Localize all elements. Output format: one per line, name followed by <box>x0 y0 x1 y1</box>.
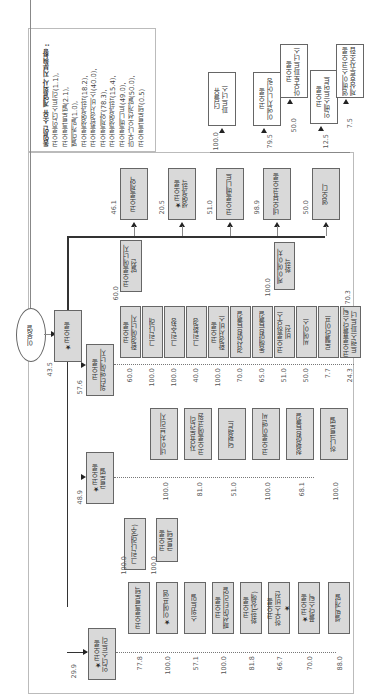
ecoone-node: 코오롱에너지 발전 <box>120 240 142 292</box>
industry-child-node: 셀빅개발 <box>328 582 350 634</box>
global-child-node: 덕평랜드 <box>218 408 246 460</box>
water-child-node: 경산맑은물길 <box>230 306 251 358</box>
arrow-icon <box>261 128 267 133</box>
owner-line <box>30 0 31 308</box>
water-child-node: 그린나래 <box>142 306 163 358</box>
industry-children-line <box>116 652 336 653</box>
org-chart: 동일인 소유 계열회사 지분현황 : 코오롱인더스트리(1.1), 코오롱글로벌… <box>0 0 379 700</box>
industry-child-node: ★코오롱 플라스틱 <box>298 582 320 634</box>
top-row-node: 코오롱베니트 <box>216 168 244 220</box>
industry-child-node: 코오롱글로텍 <box>128 582 150 634</box>
water-child-node: 동해맑은물길 <box>252 306 273 358</box>
water-child-node: 코오롱하우스 비전 <box>274 306 295 358</box>
connector <box>182 226 183 236</box>
water-child-node: 로웰라이프 <box>318 306 339 358</box>
arrow-icon <box>81 474 86 480</box>
top-right-node: 코오롱 아우토파트너스 <box>280 44 308 98</box>
owner-stake: 43.5 <box>46 362 54 376</box>
top-right-node: 코오롱 이엔지니어링 <box>253 72 281 126</box>
connector <box>326 226 327 236</box>
top-row-node: 코오롱제약 <box>120 168 148 220</box>
legend-item: 코오롱제약(78.3), <box>100 89 108 147</box>
water-children-line <box>114 364 354 365</box>
top-right-node: 코오롱 인베스트먼트 <box>310 70 338 124</box>
industry-child-node: 코오롱 패션머티리얼 <box>212 582 234 634</box>
global-child-node: 코오롱이앤씨 <box>252 408 280 460</box>
hub-node-kolon: ★코오롱 <box>54 310 82 362</box>
industry-child-node: 코오롱 하우스비전 ★ <box>268 582 290 634</box>
legend-item: 코오롱글로텍(0.5) <box>138 89 146 147</box>
hub-name: ★코오롱 <box>64 322 72 351</box>
housevision-child-node: 케이에이치 화학 <box>274 242 295 290</box>
industry-child-node: 스위트밀 <box>184 582 206 634</box>
arrow-icon <box>219 128 225 133</box>
water-child-node: 코오롱플라스틱 트랜스파트너 <box>340 306 361 358</box>
legend-item: 코오롱환경서비스(40.0), <box>90 68 98 147</box>
arrow-icon <box>318 126 324 131</box>
water-child-node: 그린환경 <box>186 306 207 358</box>
water-child-node: 코오롱 환경에너지 <box>120 306 141 358</box>
arrow-icon <box>81 362 86 368</box>
owner-node: 이웅열 <box>16 308 46 362</box>
global-node: ★코오롱 글로벌 <box>86 452 114 504</box>
legend-text: 동일인 소유 계열회사 지분현황 : 코오롱인더스트리(1.1), 코오롱글로벌… <box>33 33 147 147</box>
legend-title: 동일인 소유 계열회사 지분현황 : <box>43 44 51 147</box>
top-row-node: 엠오디 <box>312 168 340 220</box>
legend-item: 마우나오션개발(50.0), <box>128 75 136 147</box>
industry-child-node: 코오롱 화학(상해) <box>240 582 262 634</box>
global-children-line <box>114 477 314 478</box>
top-row-node: 네오뷰코오롱 <box>263 168 291 220</box>
legend-item: 코오롱생명과학(15.4), <box>109 75 117 147</box>
water-child-node: 코오롱 환경서비스 <box>208 306 229 358</box>
global-child-node: 네이처브리지 <box>150 408 178 460</box>
connector <box>134 226 135 236</box>
legend-box: 동일인 소유 계열회사 지분현황 : 코오롱인더스트리(1.1), 코오롱글로벌… <box>28 28 156 152</box>
legend-item: 코오롱베니트(49.0), <box>119 82 127 147</box>
connector <box>230 226 231 236</box>
arrow-icon <box>343 99 349 104</box>
glotech-child-node: 코오롱 글로텍 <box>156 518 178 562</box>
top-right-node: 더블유 파트너스 <box>208 72 236 126</box>
global-child-node: 하나글로벌 <box>320 408 348 460</box>
top-right-bus <box>210 152 350 153</box>
top-bus-line <box>67 236 325 238</box>
legend-item: 별레캐빌(1.0), <box>71 101 79 147</box>
trunk-line-lower <box>67 362 68 607</box>
arrow-icon <box>287 99 293 104</box>
connector <box>277 226 278 236</box>
owner-name: 이웅열 <box>27 325 35 346</box>
global-child-node: 자유로관리 코오롱에코원 <box>184 408 212 460</box>
top-row-node: ★코오롱 생명과학 <box>168 168 196 220</box>
top-right-node: 엠베이스코오롱 제삼호투자조합 <box>336 44 364 98</box>
global-child-node: 청평맑은물길 <box>286 408 314 460</box>
legend-item: 코오롱인더스트리(1.1), <box>52 73 60 147</box>
industry-child-node: ★이에프엠 <box>156 582 178 634</box>
trunk-line <box>67 236 69 310</box>
legend-item: 코오롱생명과학(18.2), <box>81 75 89 147</box>
industry-node: ★코오롱 인더스트리 <box>88 628 116 680</box>
water-child-node: 그린순창 <box>164 306 185 358</box>
arrow-icon <box>83 649 88 655</box>
legend-item: 코오롱글로벌(2.1), <box>62 87 70 147</box>
water-energy-node: 코오롱 워터앤에너지 <box>86 344 114 396</box>
water-child-node: 씨에이스 <box>296 306 317 358</box>
